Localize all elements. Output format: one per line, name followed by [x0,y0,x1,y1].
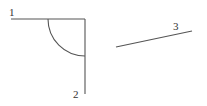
line-3 [116,31,192,47]
label-1: 1 [9,6,15,18]
angle-arc [48,19,85,56]
label-2: 2 [73,88,79,100]
label-3: 3 [173,20,179,32]
diagram-canvas: 1 2 3 [0,0,207,106]
